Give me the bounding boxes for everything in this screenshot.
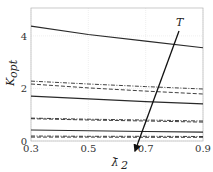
y-axis-label-subscript: opt	[7, 59, 20, 78]
series-line-dashdot-1	[31, 81, 203, 89]
y-tick-label: 0	[21, 136, 27, 147]
line-chart: 0.30.50.70.9024Tλ̄2Kopt	[0, 0, 213, 172]
x-axis-label-subscript: 2	[120, 159, 128, 172]
x-tick-label: 0.5	[80, 143, 96, 154]
y-tick-label: 2	[21, 83, 27, 94]
x-tick-label: 0.7	[138, 143, 154, 154]
series-line-solid-3	[31, 130, 203, 132]
y-tick-label: 4	[21, 31, 27, 42]
x-axis-label: λ̄	[111, 156, 119, 169]
series-line-dashdot-3	[31, 136, 203, 137]
x-tick-label: 0.9	[195, 143, 211, 154]
series-line-solid-2	[31, 96, 203, 104]
y-axis-label: Kopt	[4, 59, 20, 87]
arrow-label-t: T	[176, 16, 185, 29]
